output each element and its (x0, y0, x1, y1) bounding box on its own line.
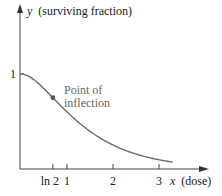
chart: 1 ln 2123 Point of inflection y (survivi… (0, 0, 222, 196)
y-axis-arrow-icon (17, 4, 23, 13)
x-tick-label: 3 (156, 174, 162, 188)
x-tick-label: 2 (110, 174, 116, 188)
inflection-point-marker (50, 95, 55, 100)
x-tick-label: ln 2 (41, 174, 59, 188)
y-tick-label-1: 1 (10, 67, 16, 81)
annotation-line1: Point of (64, 83, 102, 97)
x-axis-label: x (dose) (169, 174, 211, 188)
annotation-line2: inflection (64, 96, 110, 110)
x-tick-label: 1 (64, 174, 70, 188)
y-axis-label: y (surviving fraction) (26, 4, 132, 18)
x-axis-arrow-icon (199, 166, 209, 172)
